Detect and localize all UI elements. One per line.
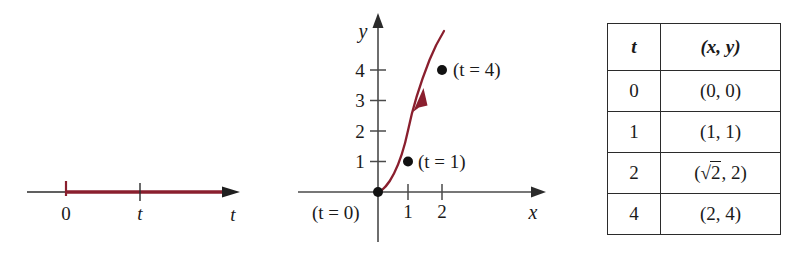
table-cell-t: 0 bbox=[608, 71, 661, 112]
y-tick-label-4: 4 bbox=[355, 60, 365, 81]
table-cell-xy: (1, 1) bbox=[661, 112, 781, 153]
table-panel: t (x, y) 0 (0, 0) 1 (1, 1) 2 bbox=[560, 0, 796, 259]
x-tick-label-2: 2 bbox=[437, 201, 447, 222]
table-header-xy: (x, y) bbox=[661, 24, 781, 71]
y-tick-label-1: 1 bbox=[355, 151, 365, 172]
radicand: 2 bbox=[710, 161, 722, 183]
number-line-panel: 0 t t bbox=[0, 0, 290, 259]
table-cell-xy-radical: (√2, 2) bbox=[661, 153, 781, 194]
sqrt-expression: (√2, 2) bbox=[694, 162, 747, 184]
graph-svg: 1 2 3 4 1 2 y x (t = 0) (t = 1) (t = 4) bbox=[290, 0, 560, 259]
table-row: 2 (√2, 2) bbox=[608, 153, 781, 194]
table-cell-t: 1 bbox=[608, 112, 661, 153]
table-header-row: t (x, y) bbox=[608, 24, 781, 71]
graph-panel: 1 2 3 4 1 2 y x (t = 0) (t = 1) (t = 4) bbox=[290, 0, 560, 259]
number-line-svg: 0 t t bbox=[0, 0, 290, 259]
table-row: 1 (1, 1) bbox=[608, 112, 781, 153]
table-cell-xy: (0, 0) bbox=[661, 71, 781, 112]
point-t1-marker bbox=[403, 157, 413, 167]
point-label-t1: (t = 1) bbox=[418, 151, 466, 173]
x-tick-label-1: 1 bbox=[403, 201, 413, 222]
number-line-label-t: t bbox=[137, 203, 143, 224]
table-cell-t: 4 bbox=[608, 194, 661, 235]
parametric-curve-figure: 0 t t 1 2 3 4 1 bbox=[0, 0, 796, 259]
table-cell-t: 2 bbox=[608, 153, 661, 194]
y-axis-label: y bbox=[357, 20, 368, 43]
y-tick-label-3: 3 bbox=[355, 90, 365, 111]
sqrt-suffix: , 2) bbox=[721, 162, 746, 183]
number-line-arrowhead bbox=[222, 187, 240, 198]
x-axis-label: x bbox=[528, 201, 538, 223]
number-line-label-zero: 0 bbox=[61, 203, 71, 224]
point-label-t0: (t = 0) bbox=[312, 202, 360, 224]
y-tick-label-2: 2 bbox=[355, 121, 365, 142]
point-t0-marker bbox=[373, 187, 383, 197]
table-header: t (x, y) bbox=[608, 24, 781, 71]
point-t4-marker bbox=[437, 65, 447, 75]
value-table: t (x, y) 0 (0, 0) 1 (1, 1) 2 bbox=[607, 23, 781, 235]
x-axis-arrowhead bbox=[531, 187, 546, 198]
table-header-t: t bbox=[608, 24, 661, 71]
table-row: 4 (2, 4) bbox=[608, 194, 781, 235]
table-body: 0 (0, 0) 1 (1, 1) 2 (√2, 2) 4 bbox=[608, 71, 781, 235]
table-row: 0 (0, 0) bbox=[608, 71, 781, 112]
table-cell-xy: (2, 4) bbox=[661, 194, 781, 235]
point-label-t4: (t = 4) bbox=[453, 59, 501, 81]
y-axis-arrowhead bbox=[373, 13, 384, 28]
number-line-axis-label: t bbox=[230, 204, 236, 225]
value-table-wrap: t (x, y) 0 (0, 0) 1 (1, 1) 2 bbox=[607, 23, 778, 233]
